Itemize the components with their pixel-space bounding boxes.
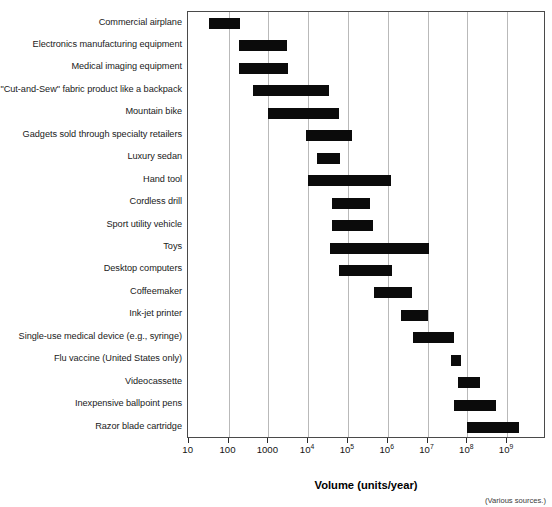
range-bar [306,130,352,141]
range-bar [308,175,391,186]
axis-tick-label: 100 [219,444,235,455]
axis-tick [228,438,229,443]
category-label: Videocassette [0,376,182,387]
range-bar [374,287,412,298]
axis-tick [188,438,189,443]
axis-tick [267,438,268,443]
axis-tick [387,438,388,443]
category-label: Electronics manufacturing equipment [0,39,182,50]
axis-tick-label: 108 [459,444,473,455]
range-bar [467,422,519,433]
category-label: Desktop computers [0,263,182,274]
category-label: Cordless drill [0,196,182,207]
axis-tick-label: 109 [499,444,513,455]
source-note: (Various sources.) [485,496,546,505]
category-label-column: Commercial airplaneElectronics manufactu… [0,11,182,438]
x-axis: 101001000104105106107108109 [187,438,545,468]
category-label: Toys [0,241,182,252]
range-bar [454,400,496,411]
axis-tick [506,438,507,443]
range-bar [339,265,391,276]
category-label: Sport utility vehicle [0,219,182,230]
category-label: Razor blade cartridge [0,421,182,432]
x-axis-label: Volume (units/year) [187,479,545,491]
category-label: Flu vaccine (United States only) [0,353,182,364]
range-bar [253,85,329,96]
plot-area [187,11,545,438]
range-bar [458,377,480,388]
category-label: Gadgets sold through specialty retailers [0,129,182,140]
range-bar [451,355,462,366]
range-bar [332,198,370,209]
axis-tick-label: 104 [300,444,314,455]
category-label: Ink-jet printer [0,308,182,319]
axis-tick-label: 1000 [257,444,278,455]
category-label: Hand tool [0,174,182,185]
range-bar [239,63,288,74]
category-label: Single-use medical device (e.g., syringe… [0,331,182,342]
category-label: Inexpensive ballpoint pens [0,398,182,409]
axis-tick-label: 105 [340,444,354,455]
axis-tick [347,438,348,443]
range-bar [239,40,287,51]
volume-range-chart: Commercial airplaneElectronics manufactu… [0,0,552,507]
category-label: Medical imaging equipment [0,61,182,72]
category-label: Mountain bike [0,106,182,117]
range-bar [317,153,339,164]
range-bar [268,108,338,119]
axis-tick [427,438,428,443]
axis-tick [307,438,308,443]
range-bar [209,18,240,29]
range-bar [401,310,428,321]
range-bar [332,220,373,231]
axis-tick-label: 107 [419,444,433,455]
category-label: "Cut-and-Sew" fabric product like a back… [0,84,182,95]
category-label: Coffeemaker [0,286,182,297]
bar-series [188,12,544,437]
axis-tick-label: 10 [182,444,193,455]
range-bar [330,243,429,254]
range-bar [413,332,454,343]
category-label: Luxury sedan [0,151,182,162]
category-label: Commercial airplane [0,17,182,28]
axis-tick [466,438,467,443]
axis-tick-label: 106 [379,444,393,455]
